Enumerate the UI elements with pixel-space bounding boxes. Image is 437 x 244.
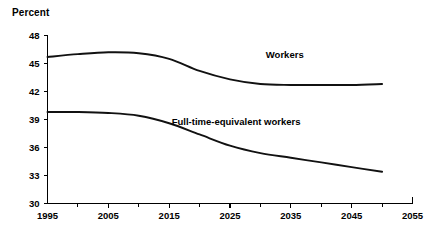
y-tick-label: 42 (29, 86, 40, 97)
x-tick-label: 2005 (98, 210, 120, 221)
y-tick-label: 39 (29, 114, 40, 125)
series-line-workers (48, 52, 383, 85)
chart-figure: Percent 48454239363330 19952005201520252… (0, 0, 437, 244)
x-tick-label: 2025 (219, 210, 241, 221)
x-tick-label: 2055 (402, 210, 424, 221)
x-tick-label: 2015 (159, 210, 181, 221)
chart-series-lines (48, 52, 383, 172)
x-tick-label: 1995 (37, 210, 59, 221)
y-tick-label: 33 (29, 170, 40, 181)
x-tick-label: 2035 (280, 210, 302, 221)
y-tick-label: 30 (29, 198, 40, 209)
x-axis-tick-labels: 1995200520152025203520452055 (37, 210, 424, 221)
y-axis-tick-labels: 48454239363330 (29, 30, 40, 209)
line-chart-plot: 48454239363330 1995200520152025203520452… (0, 0, 437, 244)
series-label-workers: Workers (266, 49, 304, 60)
series-label-full-time-equivalent-workers: Full-time-equivalent workers (172, 116, 301, 127)
x-tick-label: 2045 (341, 210, 363, 221)
y-tick-label: 45 (29, 58, 40, 69)
y-tick-label: 48 (29, 30, 40, 41)
y-tick-label: 36 (29, 142, 40, 153)
